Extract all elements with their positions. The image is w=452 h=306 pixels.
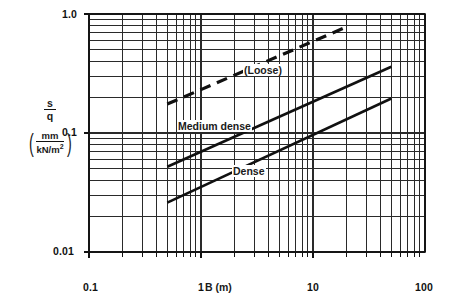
y-axis-title: s q ( mm kN/m2 ) [18, 98, 82, 155]
units-numerator: mm [36, 131, 63, 142]
settlement-ratio-chart: 1.0 0.1 0.01 0.1 1 10 100 B (m) s q ( mm… [0, 0, 452, 306]
curve-label-loose: (Loose) [243, 64, 283, 76]
units-denominator-exponent: 2 [60, 143, 64, 150]
units-fraction: mm kN/m2 [36, 131, 63, 155]
y-tick-1: 1.0 [62, 8, 77, 20]
y-axis-fraction: s q [44, 98, 56, 122]
units-denominator: kN/m2 [36, 142, 63, 155]
curve-label-medium-dense: Medium dense [177, 120, 252, 132]
log-grid [89, 14, 425, 252]
x-axis-title: B (m) [205, 281, 232, 293]
x-tick-100: 100 [415, 281, 433, 293]
y-tick-0_01: 0.01 [53, 245, 74, 257]
y-axis-numerator: s [44, 98, 56, 110]
axis-ticks [84, 14, 420, 258]
y-axis-denominator: q [44, 110, 56, 122]
units-denominator-text: kN/m [36, 144, 59, 155]
x-tick-10: 10 [307, 281, 319, 293]
curve-label-dense: Dense [232, 165, 266, 177]
x-tick-0_1: 0.1 [83, 281, 98, 293]
y-axis-units: ( mm kN/m2 ) [18, 131, 82, 155]
x-tick-1: 1 [198, 281, 204, 293]
